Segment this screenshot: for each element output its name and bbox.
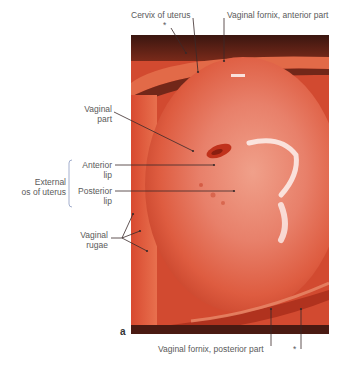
label-vaginal-part-line1: Vaginal (70, 104, 112, 114)
label-vaginal-rugae-line1: Vaginal (66, 230, 108, 240)
label-posterior-lip-line2: lip (70, 196, 112, 206)
label-cervix-asterisk: * (163, 20, 166, 30)
label-anterior-lip: Anterior lip (70, 160, 112, 180)
label-posterior-lip-line1: Posterior (70, 186, 112, 196)
cervix-photograph (131, 35, 329, 334)
label-posterior-lip: Posterior lip (70, 186, 112, 206)
label-posterior-asterisk: * (293, 344, 296, 354)
label-anterior-lip-line1: Anterior (70, 160, 112, 170)
label-vaginal-rugae-line2: rugae (66, 240, 108, 250)
label-vaginal-fornix-anterior: Vaginal fornix, anterior part (227, 10, 328, 20)
label-external-os-of-uterus: External os of uterus (10, 177, 66, 197)
label-vaginal-fornix-posterior: Vaginal fornix, posterior part (158, 344, 264, 354)
label-external-os-line1: External (10, 177, 66, 187)
label-external-os-line2: os of uterus (10, 187, 66, 197)
label-cervix-of-uterus: Cervix of uterus (131, 10, 191, 20)
panel-letter: a (120, 326, 126, 337)
label-anterior-lip-line2: lip (70, 170, 112, 180)
photo-rendering (131, 35, 329, 334)
label-vaginal-rugae: Vaginal rugae (66, 230, 108, 250)
label-vaginal-part-line2: part (70, 114, 112, 124)
label-vaginal-part: Vaginal part (70, 104, 112, 124)
